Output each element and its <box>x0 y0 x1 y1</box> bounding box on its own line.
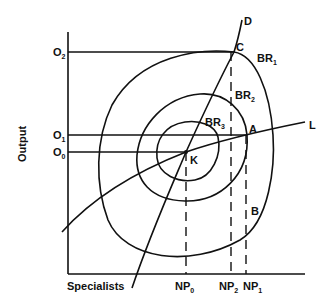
y-axis-label: Output <box>16 126 28 162</box>
point-k-dot <box>184 150 188 154</box>
label-l: L <box>309 119 316 131</box>
label-o0: O0 <box>53 146 66 160</box>
label-d: D <box>244 15 252 27</box>
label-np0: NP0 <box>175 280 194 294</box>
label-br1: BR1 <box>257 52 277 66</box>
x-axis-label: Specialists <box>67 280 124 292</box>
label-br2: BR2 <box>235 89 255 103</box>
label-np1: NP1 <box>243 280 262 294</box>
label-o2: O2 <box>53 46 66 60</box>
label-b: B <box>251 205 259 217</box>
label-np2: NP2 <box>219 280 238 294</box>
label-a: A <box>249 123 257 135</box>
label-k: K <box>190 154 198 166</box>
label-o1: O1 <box>53 129 66 143</box>
label-br3: BR3 <box>205 116 225 130</box>
label-c: C <box>236 41 244 53</box>
production-diagram: O2 O1 O0 Output Specialists NP0 NP2 NP1 … <box>0 0 331 304</box>
